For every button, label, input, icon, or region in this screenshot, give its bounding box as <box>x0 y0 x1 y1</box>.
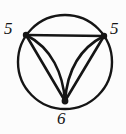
edge-left-right-chord <box>26 35 104 36</box>
vertex-dot-bottom <box>62 98 69 105</box>
edge-right-bottom-straight <box>65 36 104 101</box>
vertex-dot-left <box>23 32 29 38</box>
vertex-label-left: 5 <box>4 20 13 37</box>
vertex-label-right: 5 <box>110 20 119 37</box>
vertex-dot-right <box>101 33 107 39</box>
graph-figure: 5 5 6 <box>0 0 126 134</box>
vertex-label-bottom: 6 <box>57 110 66 127</box>
edge-left-bottom-straight <box>26 35 65 101</box>
